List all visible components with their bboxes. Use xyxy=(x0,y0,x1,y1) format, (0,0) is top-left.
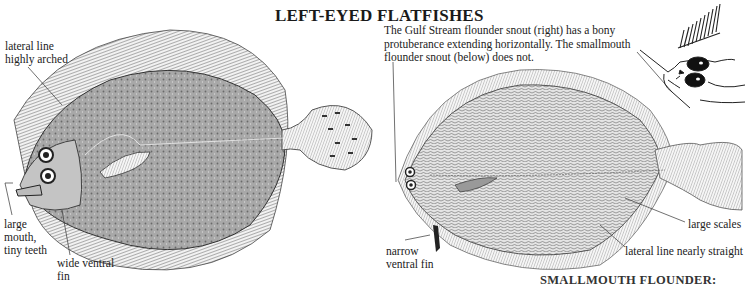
label-wide-ventral-fin: wide ventral fin xyxy=(57,257,117,283)
snout-comparison-note: The Gulf Stream flounder snout (right) h… xyxy=(384,24,634,65)
label-narrow-ventral-fin: narrow ventral fin xyxy=(386,245,446,271)
bottom-caption-partial: SMALLMOUTH FLOUNDER: xyxy=(540,273,717,285)
right-fish-illustration xyxy=(398,70,742,270)
label-large-scales: large scales xyxy=(688,218,741,231)
snout-inset-illustration xyxy=(640,4,745,108)
label-lateral-line-straight: lateral line nearly straight xyxy=(625,245,743,258)
label-large-mouth: large mouth, tiny teeth xyxy=(4,218,54,257)
label-lateral-line-arched: lateral line highly arched xyxy=(5,40,80,66)
left-fish-illustration xyxy=(14,30,372,270)
